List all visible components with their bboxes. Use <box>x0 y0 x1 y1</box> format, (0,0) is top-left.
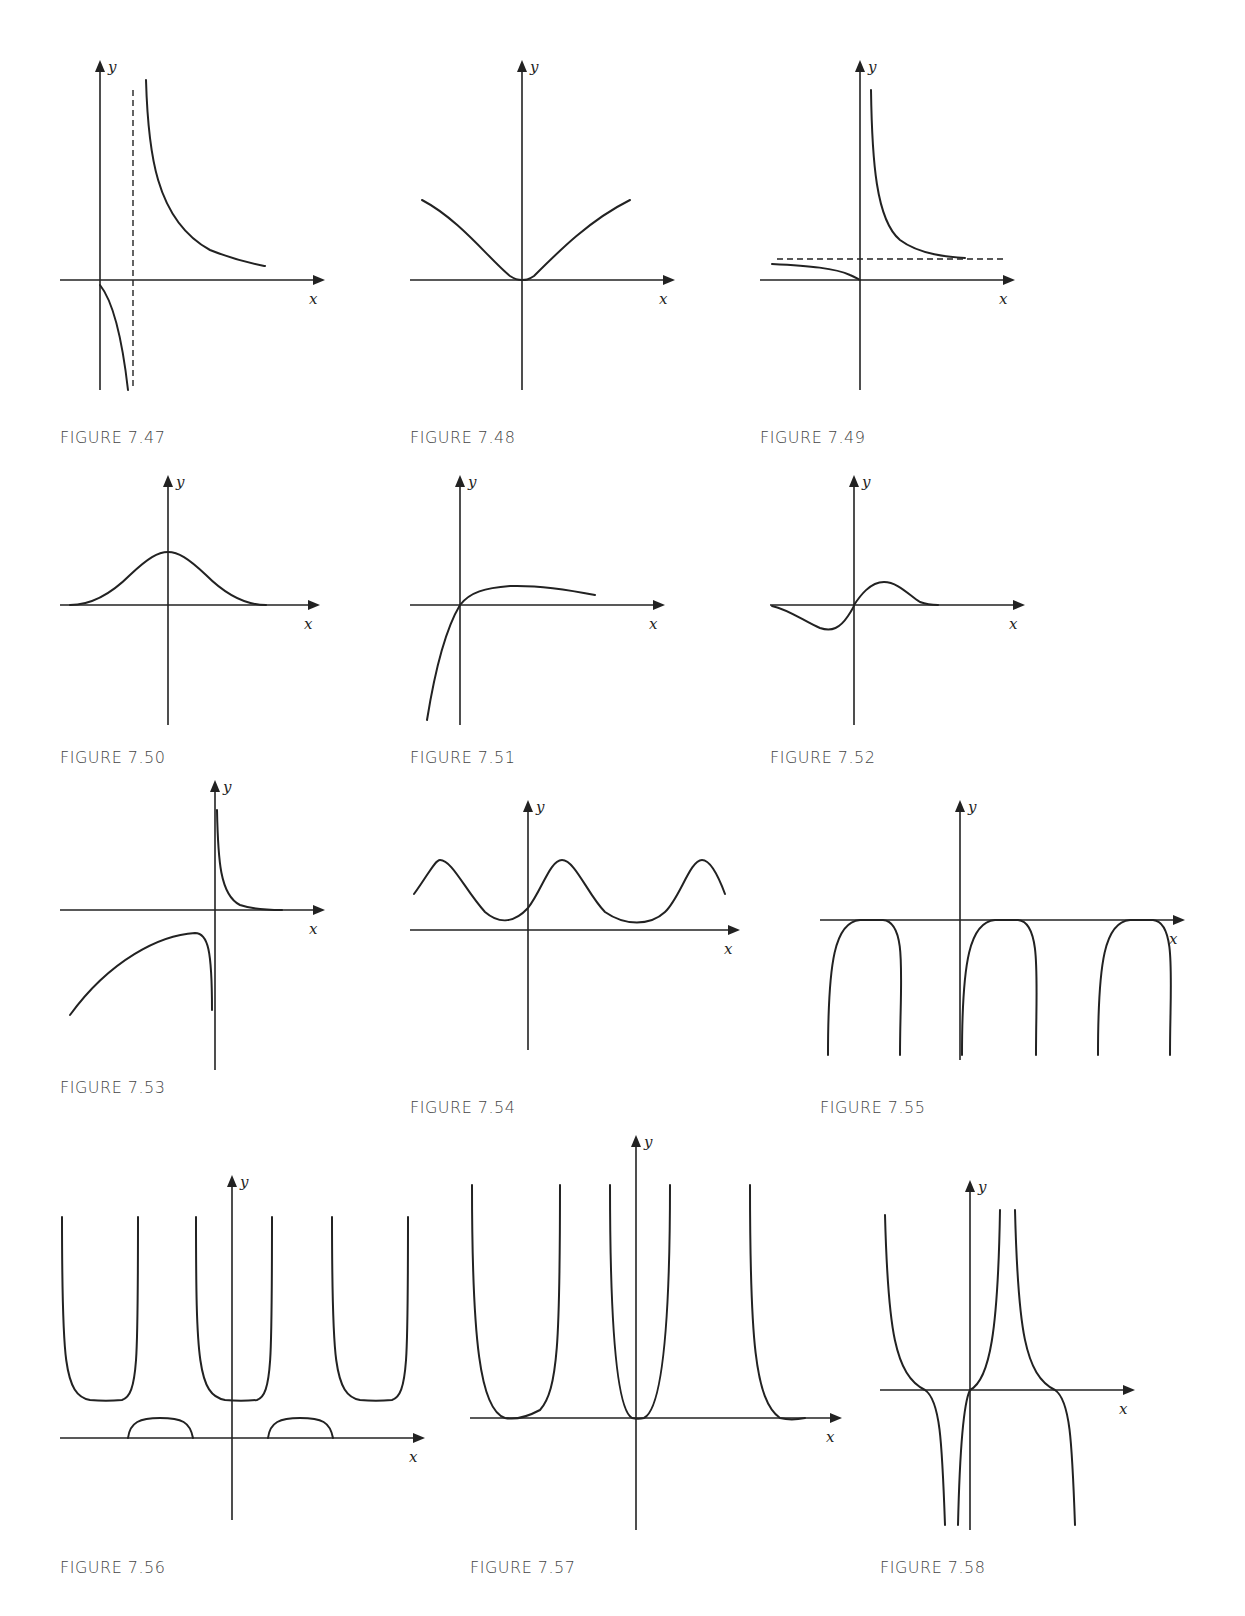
function-curve <box>772 264 860 280</box>
x-arrow-icon <box>313 275 325 285</box>
figure-7-54: xyFIGURE 7.54 <box>410 800 730 1100</box>
figure-caption: FIGURE 7.50 <box>60 748 165 767</box>
function-curve <box>268 1418 333 1438</box>
x-arrow-icon <box>1003 275 1015 285</box>
y-arrow-icon <box>455 475 465 487</box>
y-arrow-icon <box>955 800 965 812</box>
figure-caption: FIGURE 7.58 <box>880 1558 985 1577</box>
function-graph: xy <box>770 470 1030 750</box>
function-curve <box>472 1185 560 1419</box>
function-curve <box>414 860 725 923</box>
y-axis-label: y <box>239 1173 249 1191</box>
figure-7-55: xyFIGURE 7.55 <box>820 800 1190 1100</box>
y-axis-label: y <box>977 1178 987 1196</box>
figure-7-47: xyFIGURE 7.47 <box>60 60 330 430</box>
y-axis-label: y <box>107 58 117 76</box>
x-axis-label: x <box>409 1448 418 1466</box>
function-graph: xy <box>410 800 730 1100</box>
y-arrow-icon <box>227 1175 237 1187</box>
figure-7-58: xyFIGURE 7.58 <box>880 1180 1140 1560</box>
figure-caption: FIGURE 7.49 <box>760 428 865 447</box>
function-curve <box>1098 920 1171 1055</box>
x-axis-label: x <box>649 615 658 633</box>
figure-7-49: xyFIGURE 7.49 <box>760 60 1030 430</box>
figure-caption: FIGURE 7.47 <box>60 428 165 447</box>
figure-caption: FIGURE 7.53 <box>60 1078 165 1097</box>
function-curve <box>885 1215 945 1525</box>
function-curve <box>610 1185 670 1419</box>
figure-caption: FIGURE 7.56 <box>60 1558 165 1577</box>
x-axis-label: x <box>1119 1400 1128 1418</box>
x-axis-label: x <box>826 1428 835 1446</box>
function-curve <box>962 920 1037 1055</box>
y-axis-label: y <box>529 58 539 76</box>
x-arrow-icon <box>313 905 325 915</box>
x-axis-label: x <box>309 920 318 938</box>
x-arrow-icon <box>663 275 675 285</box>
y-axis-label: y <box>861 473 871 491</box>
x-arrow-icon <box>1013 600 1025 610</box>
figure-7-51: xyFIGURE 7.51 <box>410 470 660 750</box>
x-axis-label: x <box>1009 615 1018 633</box>
figure-caption: FIGURE 7.55 <box>820 1098 925 1117</box>
figure-caption: FIGURE 7.51 <box>410 748 515 767</box>
figure-7-56: xyFIGURE 7.56 <box>60 1160 420 1560</box>
figure-caption: FIGURE 7.57 <box>470 1558 575 1577</box>
function-curve <box>196 1217 272 1401</box>
function-curve <box>750 1185 805 1420</box>
y-arrow-icon <box>965 1180 975 1192</box>
y-arrow-icon <box>523 800 533 812</box>
function-graph: xy <box>760 60 1030 430</box>
x-axis-label: x <box>724 940 733 958</box>
x-arrow-icon <box>653 600 665 610</box>
function-graph: xy <box>470 1140 840 1560</box>
y-axis-label: y <box>643 1133 653 1151</box>
function-curve <box>427 586 595 720</box>
figure-7-52: xyFIGURE 7.52 <box>770 470 1030 750</box>
x-arrow-icon <box>413 1433 425 1443</box>
function-curve <box>100 285 128 390</box>
y-arrow-icon <box>631 1135 641 1147</box>
function-graph: xy <box>60 1160 420 1560</box>
figure-7-53: xyFIGURE 7.53 <box>60 780 320 1080</box>
y-axis-label: y <box>535 798 545 816</box>
x-axis-label: x <box>309 290 318 308</box>
function-curve <box>62 1217 138 1401</box>
y-axis-label: y <box>467 473 477 491</box>
y-arrow-icon <box>855 60 865 72</box>
figure-7-57: xyFIGURE 7.57 <box>470 1140 840 1560</box>
function-curve <box>828 920 901 1055</box>
function-curve <box>128 1418 193 1438</box>
y-axis-label: y <box>222 778 232 796</box>
function-graph: xy <box>820 800 1190 1100</box>
function-curve <box>146 80 265 266</box>
y-axis-label: y <box>175 473 185 491</box>
y-arrow-icon <box>517 60 527 72</box>
function-graph: xy <box>880 1180 1140 1560</box>
function-curve <box>70 933 212 1015</box>
y-arrow-icon <box>210 780 220 792</box>
figure-7-50: xyFIGURE 7.50 <box>60 470 320 750</box>
function-curve <box>958 1210 1000 1525</box>
x-axis-label: x <box>304 615 313 633</box>
x-axis-label: x <box>1169 930 1178 948</box>
x-arrow-icon <box>1123 1385 1135 1395</box>
x-arrow-icon <box>830 1413 842 1423</box>
figure-caption: FIGURE 7.48 <box>410 428 515 447</box>
function-curve <box>217 810 282 910</box>
function-curve <box>332 1217 408 1401</box>
function-curve <box>871 90 965 258</box>
function-graph: xy <box>410 470 660 750</box>
function-graph: xy <box>60 470 320 750</box>
function-curve <box>422 200 630 280</box>
y-arrow-icon <box>849 475 859 487</box>
y-arrow-icon <box>163 475 173 487</box>
y-axis-label: y <box>867 58 877 76</box>
figure-caption: FIGURE 7.54 <box>410 1098 515 1117</box>
x-arrow-icon <box>728 925 740 935</box>
x-axis-label: x <box>999 290 1008 308</box>
function-graph: xy <box>60 60 330 430</box>
y-arrow-icon <box>95 60 105 72</box>
x-arrow-icon <box>308 600 320 610</box>
function-graph: xy <box>60 780 320 1080</box>
